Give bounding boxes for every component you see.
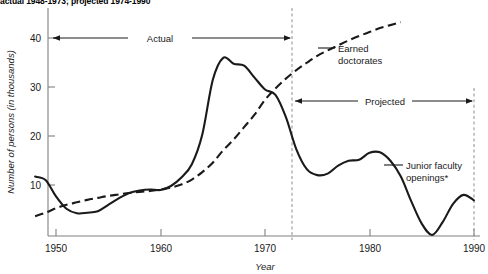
y-tick-label-10: 10 (30, 180, 42, 191)
y-tick-label-20: 20 (30, 131, 42, 142)
junior-faculty-label-line1: Junior faculty (406, 160, 462, 171)
projected-span-label: Projected (365, 96, 405, 107)
x-axis-title: Year (255, 261, 275, 272)
line-chart-plot: 40 30 20 10 1950 1960 1970 1980 1990 Num… (0, 0, 488, 274)
y-tick-marks (48, 38, 55, 185)
x-tick-label-1980: 1980 (359, 243, 382, 254)
chart-figure: actual 1948-1973; projected 1974-1990 40… (0, 0, 488, 274)
x-tick-marks (56, 229, 474, 236)
junior-faculty-label-line2: openings* (406, 172, 449, 183)
x-tick-label-1970: 1970 (254, 243, 277, 254)
earned-doctorates-label-line1: Earned (338, 43, 369, 54)
earned-doctorates-label-line2: doctorates (338, 55, 383, 66)
y-tick-label-30: 30 (30, 82, 42, 93)
y-tick-label-40: 40 (30, 33, 42, 44)
x-tick-label-1960: 1960 (150, 243, 173, 254)
series-junior-faculty-openings (35, 57, 474, 235)
y-axis-title: Number of persons (in thousands) (5, 50, 16, 194)
x-tick-label-1950: 1950 (45, 243, 68, 254)
actual-span-label: Actual (147, 33, 173, 44)
x-tick-label-1990: 1990 (463, 243, 486, 254)
